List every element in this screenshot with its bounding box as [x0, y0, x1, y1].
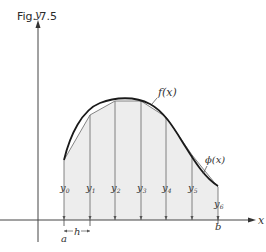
interval-start-label: a — [61, 233, 67, 244]
curve-label-leader — [152, 98, 157, 104]
curve-label: f(x) — [157, 86, 177, 99]
y-axis-arrow-icon — [36, 20, 41, 28]
x-axis-label: x — [258, 214, 265, 227]
trapezoid-rule-diagram: y x f(x) ϕ(x) y0 y1 y2 y3 y4 y5 y6 h a b — [0, 0, 266, 252]
ordinate-label-y6: y6 — [213, 198, 224, 210]
y-axis-label: y — [34, 8, 42, 21]
step-h-dimension: h — [64, 226, 90, 237]
interval-end-label: b — [215, 221, 221, 232]
step-label: h — [74, 226, 80, 237]
approx-label: ϕ(x) — [205, 154, 225, 165]
x-axis-arrow-icon — [248, 218, 256, 223]
